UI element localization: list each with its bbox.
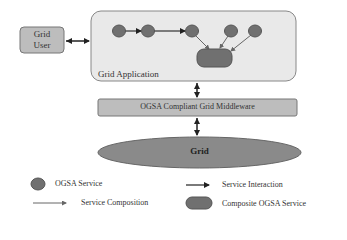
grid-user-label: Grid User	[20, 29, 64, 51]
middleware-label: OGSA Compliant Grid Middleware	[98, 102, 297, 111]
grid-user-label-line2: User	[20, 40, 64, 51]
ogsa-service-node	[113, 25, 126, 37]
ogsa-service-node	[225, 25, 238, 37]
grid-user-label-line1: Grid	[20, 29, 64, 40]
ogsa-service-node	[249, 25, 262, 37]
legend-composite-ogsa-service-icon	[186, 197, 212, 209]
legend-ogsa-service-label: OGSA Service	[55, 179, 102, 188]
ogsa-service-node	[186, 25, 199, 37]
legend-service-interaction-label: Service Interaction	[222, 180, 283, 189]
legend-service-composition-label: Service Composition	[81, 198, 148, 207]
grid-application-label: Grid Application	[98, 69, 159, 79]
ogsa-service-node	[142, 25, 155, 37]
legend-ogsa-service-icon	[31, 178, 45, 190]
composite-ogsa-service-node	[197, 49, 232, 67]
grid-label: Grid	[98, 146, 301, 156]
legend-composite-ogsa-service-label: Composite OGSA Service	[222, 199, 306, 208]
